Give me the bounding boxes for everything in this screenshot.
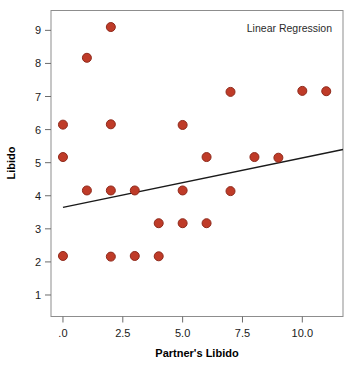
data-point [202,219,211,228]
y-tick-label: 1 [35,289,41,301]
data-point [130,186,139,195]
x-tick-label: .0 [58,327,67,339]
data-point [178,186,187,195]
x-axis-title: Partner's Libido [155,347,239,359]
plot-frame-border [51,11,343,317]
y-tick-label: 7 [35,91,41,103]
data-point [154,252,163,261]
data-point [58,120,67,129]
y-tick-label: 2 [35,256,41,268]
data-point [250,153,259,162]
data-point [226,187,235,196]
data-point [202,153,211,162]
data-point [130,251,139,260]
x-tick-label: 10.0 [292,327,313,339]
plot-canvas: 123456789 .02.55.07.510.0 Linear Regress… [0,0,352,368]
y-tick-label: 8 [35,57,41,69]
data-point [178,219,187,228]
data-point [82,53,91,62]
linear-regression-annotation: Linear Regression [247,22,332,34]
y-tick-label: 6 [35,124,41,136]
x-tick-label: 2.5 [115,327,130,339]
data-point [106,23,115,32]
x-tick-label: 7.5 [235,327,250,339]
scatter-plot-figure: 123456789 .02.55.07.510.0 Linear Regress… [0,0,352,368]
y-tick-label: 3 [35,223,41,235]
data-point [106,186,115,195]
data-point [154,219,163,228]
data-point [298,86,307,95]
data-point [106,120,115,129]
data-point [226,87,235,96]
data-point [58,153,67,162]
y-tick-label: 4 [35,190,41,202]
data-point [322,87,331,96]
data-point [106,252,115,261]
data-point [82,186,91,195]
data-point [58,251,67,260]
x-tick-label: 5.0 [175,327,190,339]
y-axis-title: Libido [5,146,17,179]
y-tick-label: 9 [35,24,41,36]
y-tick-label: 5 [35,157,41,169]
data-point [178,120,187,129]
data-point [274,153,283,162]
